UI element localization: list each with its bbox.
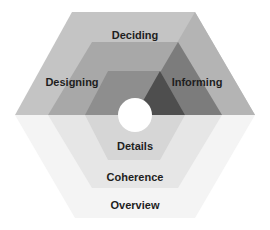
label-informing: Informing (172, 76, 223, 88)
label-coherence: Coherence (107, 171, 164, 183)
label-details: Details (117, 140, 153, 152)
center-circle (118, 98, 152, 132)
hexagon-diagram: Deciding Designing Informing Details Coh… (0, 0, 270, 230)
label-deciding: Deciding (112, 29, 158, 41)
label-overview: Overview (111, 199, 160, 211)
label-designing: Designing (45, 76, 98, 88)
